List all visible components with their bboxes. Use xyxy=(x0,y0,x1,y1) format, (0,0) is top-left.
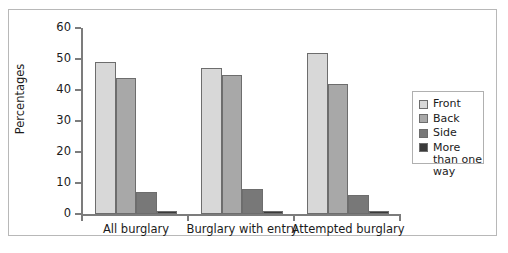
legend-label: More than one way xyxy=(433,142,483,178)
bar xyxy=(136,192,157,214)
legend-item: Side xyxy=(419,127,483,139)
y-tick-label: 0 xyxy=(33,208,71,220)
x-tick-mark xyxy=(81,214,83,221)
legend-swatch-icon xyxy=(419,114,428,123)
plot-area xyxy=(82,28,400,214)
legend-label: Front xyxy=(433,98,461,110)
legend-swatch-icon xyxy=(419,129,428,138)
y-tick-mark xyxy=(75,151,81,153)
bar xyxy=(242,189,263,214)
chart-figure: Percentages 0102030405060 All burglaryBu… xyxy=(0,0,508,253)
x-category-label: Attempted burglary xyxy=(273,222,423,236)
bar xyxy=(116,78,137,214)
y-tick-label-wrap: 40 xyxy=(27,84,71,96)
x-tick-mark xyxy=(187,214,189,221)
x-tick-mark xyxy=(399,214,401,221)
y-tick-mark xyxy=(75,120,81,122)
y-tick-label-wrap: 20 xyxy=(27,146,71,158)
bar xyxy=(328,84,349,214)
y-tick-label-wrap: 60 xyxy=(27,22,71,34)
y-tick-mark xyxy=(75,27,81,29)
legend-item: Back xyxy=(419,113,483,125)
y-tick-label-wrap: 0 xyxy=(27,208,71,220)
bar xyxy=(222,75,243,215)
bar xyxy=(348,195,369,214)
x-axis-line xyxy=(81,214,401,216)
y-tick-mark xyxy=(75,58,81,60)
y-tick-label: 60 xyxy=(33,22,71,34)
y-tick-label: 40 xyxy=(33,84,71,96)
x-tick-mark xyxy=(293,214,295,221)
y-tick-label-wrap: 10 xyxy=(27,177,71,189)
legend-item: Front xyxy=(419,98,483,110)
bar xyxy=(307,53,328,214)
bar xyxy=(95,62,116,214)
chart-legend: FrontBackSideMore than one way xyxy=(412,91,484,164)
legend-item: More than one way xyxy=(419,142,483,178)
y-tick-label-wrap: 30 xyxy=(27,115,71,127)
y-axis-title: Percentages xyxy=(13,39,27,159)
legend-swatch-icon xyxy=(419,100,428,109)
legend-swatch-icon xyxy=(419,143,428,152)
bar xyxy=(201,68,222,214)
y-tick-label: 30 xyxy=(33,115,71,127)
y-tick-label: 20 xyxy=(33,146,71,158)
y-tick-label: 50 xyxy=(33,53,71,65)
y-tick-mark xyxy=(75,213,81,215)
y-tick-label: 10 xyxy=(33,177,71,189)
bar xyxy=(157,211,178,214)
legend-label: Back xyxy=(433,113,460,125)
bar xyxy=(369,211,390,214)
legend-label: Side xyxy=(433,127,457,139)
y-tick-mark xyxy=(75,89,81,91)
bar xyxy=(263,211,284,214)
y-tick-mark xyxy=(75,182,81,184)
y-tick-label-wrap: 50 xyxy=(27,53,71,65)
